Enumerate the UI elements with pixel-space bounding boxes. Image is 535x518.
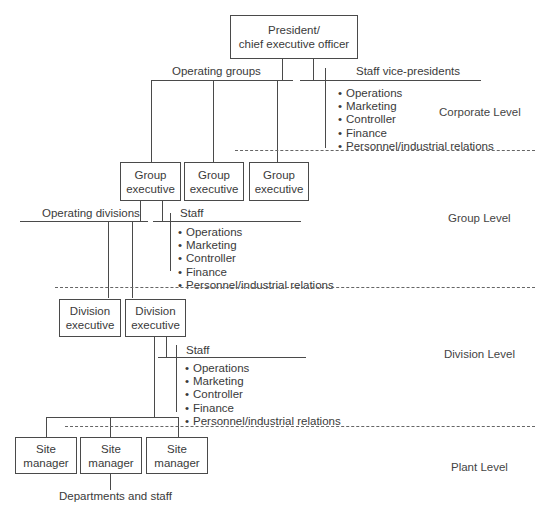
group-level-label: Group Level [448,212,511,224]
site-bus [46,417,179,418]
division-staff-vertical [176,345,177,412]
ceo-to-staff-line [313,58,314,80]
staff-item: Operations [185,362,341,375]
staff-item: Finance [338,127,494,140]
group-staff-label: Staff [180,207,203,219]
division-staff-bus [158,357,306,358]
corporate-group-divider [235,150,535,151]
site3-drop-line [178,417,179,437]
division-staff-list: Operations Marketing Controller Finance … [185,362,341,428]
division-plant-divider [65,426,535,427]
staff-item: Operations [338,87,494,100]
staff-item: Personnel/industrial relations [338,140,494,153]
staff-vp-label: Staff vice-presidents [356,65,460,77]
ceo-title-line2: chief executive officer [239,37,349,51]
group-to-operating-line [140,200,141,221]
group-executive-box-1: Group executive [120,162,181,201]
division-executive-box-1: Division executive [59,299,121,337]
staff-item: Controller [185,388,341,401]
group1-drop-line [151,80,152,162]
site1-drop-line [46,417,47,437]
staff-item: Personnel/industrial relations [178,279,334,292]
staff-item: Finance [178,266,334,279]
division-staff-label: Staff [186,344,209,356]
staff-vp-bus [300,80,481,81]
division-to-staff-line [166,336,167,357]
ceo-box: President/ chief executive officer [230,15,358,59]
staff-item: Marketing [185,375,341,388]
plant-level-label: Plant Level [451,461,508,473]
group-staff-vertical [170,213,171,271]
site2-drop-line [110,417,111,437]
group-executive-box-3: Group executive [249,162,309,201]
site-to-departments-line [110,473,111,490]
group-executive-box-2: Group executive [184,162,244,201]
operating-divisions-bus [20,221,148,222]
operating-groups-bus [151,80,293,81]
staff-item: Finance [185,402,341,415]
ceo-to-operating-line [282,58,283,80]
staff-item: Marketing [178,239,334,252]
group-division-divider [55,287,535,288]
departments-label: Departments and staff [59,490,172,502]
site-manager-box-2: Site manager [80,437,142,474]
division-executive-box-2: Division executive [125,299,186,337]
ceo-title-line1: President/ [268,23,320,37]
operating-divisions-label: Operating divisions [42,207,140,219]
division-level-label: Division Level [444,348,515,360]
division-to-site-line [154,336,155,417]
operating-groups-label: Operating groups [172,65,261,77]
group-to-staff-line [162,200,163,221]
group-staff-list: Operations Marketing Controller Finance … [178,226,334,292]
site-manager-box-3: Site manager [146,437,208,474]
staff-item: Controller [178,252,334,265]
site-manager-box-1: Site manager [15,437,77,474]
corporate-level-label: Corporate Level [439,106,521,118]
group2-drop-line [213,80,214,162]
group-staff-bus [153,221,301,222]
staff-vp-vertical [325,68,326,148]
corporate-staff-list: Operations Marketing Controller Finance … [338,87,494,153]
staff-item: Operations [178,226,334,239]
